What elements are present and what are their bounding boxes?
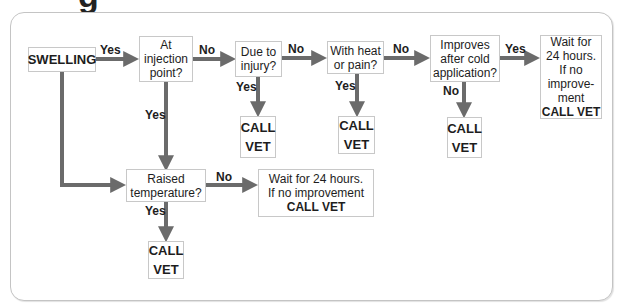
node-text-line: Improves xyxy=(433,38,497,52)
node-wait-bottom: Wait for 24 hours. If no improvement CAL… xyxy=(258,169,374,217)
node-text-line: If no xyxy=(542,63,600,77)
node-text-line: VET xyxy=(241,137,276,156)
node-swelling-label: SWELLING xyxy=(28,53,97,67)
node-text-line: CALL xyxy=(447,119,482,138)
node-text-line: VET xyxy=(149,260,184,279)
node-call-vet-heat: CALL VET xyxy=(338,116,375,154)
edge-label-no: No xyxy=(393,42,409,56)
node-action: CALL VET xyxy=(268,200,364,214)
node-text-line: improve- xyxy=(542,77,600,91)
edge-label-yes: Yes xyxy=(335,79,356,93)
node-cold-application: Improves after cold application? xyxy=(430,35,500,82)
node-text-line: point? xyxy=(144,66,188,80)
edge-label-yes: Yes xyxy=(145,204,166,218)
node-heat-or-pain: With heat or pain? xyxy=(327,41,384,74)
node-text-line: If no improvement xyxy=(268,186,364,200)
node-text-line: or pain? xyxy=(330,58,381,72)
edge-label-yes: Yes xyxy=(236,80,257,94)
node-text-line: 24 hours. xyxy=(542,49,600,63)
node-call-vet-temperature: CALL VET xyxy=(148,241,184,279)
node-wait-right: Wait for 24 hours. If no improve- ment C… xyxy=(540,35,602,119)
edge-label-no: No xyxy=(216,170,232,184)
connector-arrows xyxy=(0,0,620,305)
node-call-vet-cold: CALL VET xyxy=(447,117,482,158)
node-text-line: Due to xyxy=(241,45,276,59)
node-text-line: injection xyxy=(144,52,188,66)
edge-label-yes: Yes xyxy=(145,108,166,122)
node-text-line: At xyxy=(144,38,188,52)
edge-label-yes: Yes xyxy=(505,42,526,56)
node-text-line: ment xyxy=(542,91,600,105)
edge-label-no: No xyxy=(199,43,215,57)
edge-label-yes: Yes xyxy=(100,43,121,57)
node-injection-point: At injection point? xyxy=(139,36,193,82)
node-text-line: Wait for xyxy=(542,35,600,49)
node-action: CALL VET xyxy=(542,105,600,119)
node-text-line: injury? xyxy=(241,59,276,73)
node-text-line: CALL xyxy=(241,118,276,137)
node-text-line: CALL xyxy=(149,241,184,260)
node-text-line: after cold xyxy=(433,52,497,66)
node-text-line: Wait for 24 hours. xyxy=(268,172,364,186)
node-swelling: SWELLING xyxy=(28,47,96,72)
node-text-line: VET xyxy=(339,135,374,154)
node-text-line: VET xyxy=(447,138,482,157)
edge-label-no: No xyxy=(288,42,304,56)
node-text-line: application? xyxy=(433,66,497,80)
node-raised-temperature: Raised temperature? xyxy=(126,169,206,202)
node-text-line: Raised xyxy=(130,172,201,186)
node-due-to-injury: Due to injury? xyxy=(235,41,282,77)
node-call-vet-injury: CALL VET xyxy=(240,116,276,158)
node-text-line: With heat xyxy=(330,44,381,58)
edge-label-no: No xyxy=(443,84,459,98)
node-text-line: CALL xyxy=(339,116,374,135)
node-text-line: temperature? xyxy=(130,186,201,200)
